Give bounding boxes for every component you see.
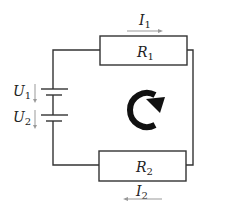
current-i1-label: I1 — [138, 12, 151, 30]
resistor-r1: R1 — [100, 36, 187, 65]
voltage-u1-label: U1 — [13, 83, 31, 101]
arrow-right-icon — [158, 29, 163, 33]
circuit-diagram: R1 R2 U1 U2 I1 I2 — [0, 0, 244, 213]
wire-top-left — [53, 50, 100, 89]
arrow-left-icon — [123, 197, 128, 201]
clockwise-loop-icon — [130, 93, 165, 127]
resistor-r2: R2 — [99, 151, 186, 181]
battery — [41, 89, 68, 121]
wire-right — [186, 50, 193, 165]
voltage-arrows — [33, 84, 37, 129]
voltage-u2-label: U2 — [13, 109, 31, 127]
current-i2-label: I2 — [135, 183, 148, 201]
wires — [53, 50, 193, 165]
wire-bottom-left — [53, 121, 99, 165]
